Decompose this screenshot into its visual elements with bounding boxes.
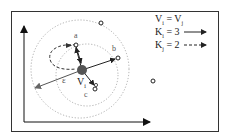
point-outlier-top — [99, 21, 103, 25]
epsilon-radius-arrow — [35, 70, 82, 88]
kj-dashed-loop — [50, 45, 76, 70]
label-epsilon: ε — [62, 76, 66, 85]
legend-2-eq: = 2 — [164, 39, 180, 50]
arrow-from-a — [76, 46, 81, 63]
point-outlier-right — [151, 79, 155, 83]
diagram-canvas: a b c ε Vi Vi = Vj Ki = 3 Kj = 2 — [0, 0, 230, 139]
arrow-to-b — [82, 59, 115, 70]
legend-1-eq: = 3 — [164, 26, 180, 37]
legend-item-ki: Ki = 3 — [155, 27, 180, 39]
point-c2 — [94, 83, 97, 86]
center-point-vi — [77, 65, 87, 75]
legend-0-sub2: j — [182, 20, 184, 26]
legend-item-equality: Vi = Vj — [155, 14, 183, 26]
label-vi: Vi — [77, 77, 86, 89]
diagram-svg — [0, 0, 230, 139]
legend-item-kj: Kj = 2 — [155, 40, 180, 52]
point-c — [93, 87, 97, 91]
figure-frame — [12, 12, 219, 132]
label-b: b — [112, 45, 116, 53]
kj-dashed-arrowhead — [66, 43, 72, 48]
label-vi-sub: i — [84, 83, 86, 89]
point-b — [116, 56, 120, 60]
label-c: c — [84, 91, 88, 99]
point-a — [74, 43, 78, 47]
legend-0-eq: = V — [164, 13, 182, 24]
label-a: a — [74, 32, 78, 40]
